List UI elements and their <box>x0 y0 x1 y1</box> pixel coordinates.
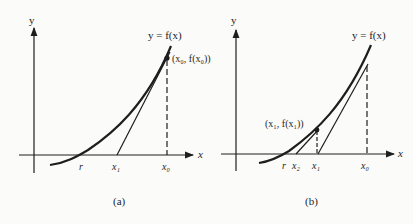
tick-x1: x₁ <box>111 161 120 172</box>
tangent-line-1 <box>318 64 368 154</box>
function-curve <box>259 45 371 163</box>
x-axis-label: x <box>397 147 403 159</box>
tangent-line <box>117 52 170 155</box>
y-axis-label: y <box>231 14 237 26</box>
function-curve <box>50 46 171 165</box>
panel-b: y x y = f(x) (x₁, f(x₁)) r x₂ x₁ x₀ (b) <box>221 14 403 208</box>
tick-x0: x₀ <box>360 160 369 171</box>
tick-r: r <box>79 161 83 172</box>
tick-x1: x₁ <box>311 160 320 171</box>
curve-label: y = f(x) <box>352 29 386 42</box>
point-label: (x₀, f(x₀)) <box>172 53 211 65</box>
point-label: (x₁, f(x₁)) <box>265 118 304 130</box>
panel-a: y x y = f(x) (x₀, f(x₀)) r x₁ x₀ (a) <box>19 14 211 208</box>
curve-label: y = f(x) <box>148 29 182 42</box>
point-x0 <box>164 55 169 60</box>
caption-b: (b) <box>305 195 318 208</box>
x-axis-label: x <box>197 148 203 160</box>
caption-a: (a) <box>113 195 126 208</box>
y-axis-label: y <box>29 14 35 26</box>
tick-r: r <box>282 160 286 171</box>
tick-x2: x₂ <box>291 160 300 171</box>
point-x1 <box>315 128 320 133</box>
newton-method-figure: y x y = f(x) (x₀, f(x₀)) r x₁ x₀ (a) y x… <box>0 0 413 224</box>
tick-x0: x₀ <box>161 161 170 172</box>
